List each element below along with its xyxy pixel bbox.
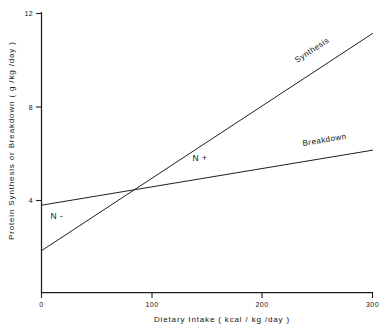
y-tick-labels: 12 8 4 xyxy=(24,10,33,204)
x-tick-label-300: 300 xyxy=(366,301,379,308)
y-tick-marks xyxy=(36,14,42,201)
x-tick-labels: 0 100 200 300 xyxy=(39,301,379,308)
chart-canvas: 12 8 4 0 100 200 300 Protein Synthesis o… xyxy=(0,0,389,330)
chart-figure: 12 8 4 0 100 200 300 Protein Synthesis o… xyxy=(0,0,389,330)
x-axis-title: Dietary Intake ( kcal / kg /day ) xyxy=(154,315,290,324)
x-tick-marks xyxy=(42,293,373,299)
x-tick-label-0: 0 xyxy=(39,301,43,308)
synthesis-series-label: Synthesis xyxy=(293,36,331,65)
y-tick-label-8: 8 xyxy=(29,104,33,111)
y-axis-title: Protein Synthesis or Breakdown ( g /kg /… xyxy=(7,41,16,240)
breakdown-series-label: Breakdown xyxy=(302,132,347,148)
n-negative-annotation: N - xyxy=(51,211,64,221)
y-tick-label-12: 12 xyxy=(24,10,33,17)
n-positive-annotation: N + xyxy=(193,153,208,163)
x-tick-label-100: 100 xyxy=(146,301,159,308)
y-tick-label-4: 4 xyxy=(29,197,33,204)
x-tick-label-200: 200 xyxy=(256,301,269,308)
